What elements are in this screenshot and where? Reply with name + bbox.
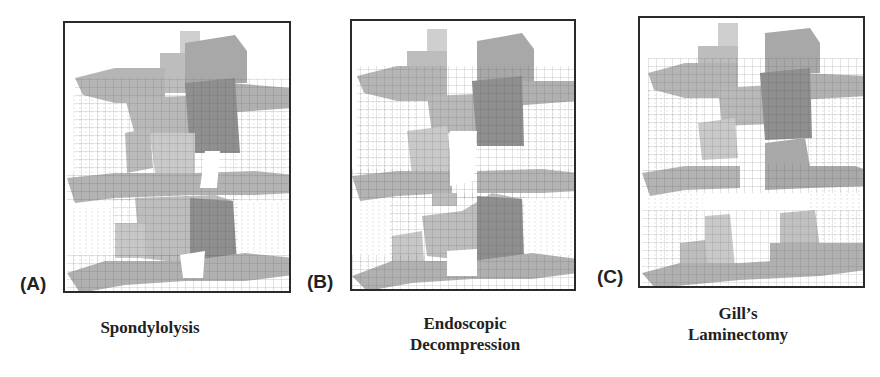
spine-mesh-model-b	[352, 21, 576, 291]
panel-b-caption-line-2: Decompression	[380, 334, 550, 355]
spine-mesh-model-c	[640, 18, 865, 288]
spine-mesh-model-a	[65, 23, 291, 293]
panel-b-label: (B)	[307, 271, 333, 293]
panel-a-caption-line-1: Spondylolysis	[80, 317, 220, 338]
panel-a-caption: Spondylolysis	[80, 317, 220, 338]
panel-c-label: (C)	[597, 266, 623, 288]
panel-b-caption-line-1: Endoscopic	[380, 313, 550, 334]
panel-c-frame	[638, 16, 865, 288]
panel-a-frame	[63, 21, 291, 293]
panel-a-label: (A)	[20, 273, 46, 295]
panel-b-frame	[350, 19, 576, 291]
panel-b-caption: Endoscopic Decompression	[380, 313, 550, 355]
panel-c-caption-line-2: Laminectomy	[663, 324, 813, 345]
panel-c-caption: Gill’s Laminectomy	[663, 303, 813, 345]
panel-c-caption-line-1: Gill’s	[663, 303, 813, 324]
